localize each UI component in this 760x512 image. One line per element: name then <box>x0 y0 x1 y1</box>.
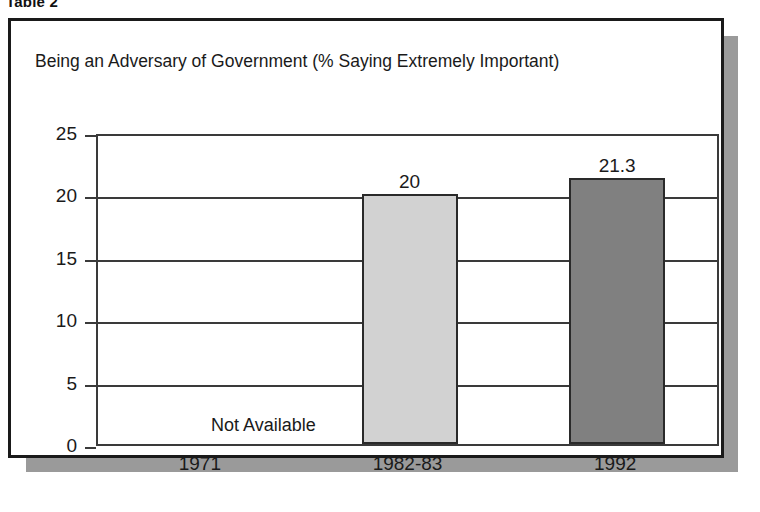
y-axis-tick <box>85 385 96 387</box>
bar <box>569 178 665 444</box>
plot-area: 2021.3 Not Available <box>96 134 719 446</box>
not-available-label: Not Available <box>211 415 316 436</box>
figure-caption: Table 2 <box>6 0 58 10</box>
bar <box>362 194 458 444</box>
chart-frame: Being an Adversary of Government (% Sayi… <box>8 18 724 458</box>
y-axis-tick-label: 10 <box>31 310 77 332</box>
y-axis-tick-label: 20 <box>31 185 77 207</box>
bar-value-label: 20 <box>399 171 420 193</box>
x-axis-category-label: 1992 <box>594 453 636 475</box>
y-axis-tick-label: 0 <box>31 435 77 457</box>
chart-title: Being an Adversary of Government (% Sayi… <box>35 51 559 72</box>
y-axis-tick-label: 5 <box>31 373 77 395</box>
y-axis-tick <box>85 197 96 199</box>
x-axis-category-label: 1971 <box>179 453 221 475</box>
y-axis-labels: 0510152025 <box>31 134 77 446</box>
y-axis-tick <box>85 447 96 449</box>
y-axis-tick-label: 15 <box>31 248 77 270</box>
x-axis-labels: 19711982-831992 <box>96 453 719 487</box>
y-axis-tick <box>85 322 96 324</box>
y-axis-tick <box>85 135 96 137</box>
bar-value-label: 21.3 <box>599 155 636 177</box>
y-axis-tick <box>85 260 96 262</box>
x-axis-category-label: 1982-83 <box>373 453 443 475</box>
y-axis-tick-label: 25 <box>31 123 77 145</box>
